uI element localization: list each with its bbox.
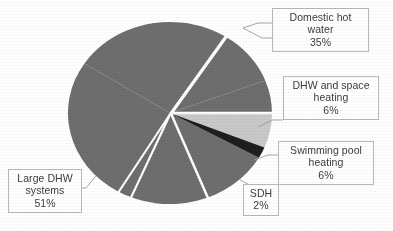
callout-domestic-hot-water-line2: water — [277, 23, 364, 35]
callout-dhw-and-space-heating-line2: heating — [288, 91, 374, 103]
leader-line-large-dhw-systems — [82, 176, 96, 188]
callout-domestic-hot-water[interactable]: Domestic hot water 35% — [272, 8, 369, 52]
callout-domestic-hot-water-line1: Domestic hot — [277, 11, 364, 23]
callout-large-dhw-systems[interactable]: Large DHW systems 51% — [8, 169, 82, 213]
callout-large-dhw-systems-line1: Large DHW — [13, 172, 77, 184]
callout-dhw-and-space-heating-line1: DHW and space — [288, 79, 374, 91]
callout-sdh-percent: 2% — [248, 199, 274, 211]
callout-sdh-line1: SDH — [248, 187, 274, 199]
leader-line-domestic-hot-water-lower — [243, 28, 272, 38]
callout-dhw-and-space-heating-percent: 6% — [288, 104, 374, 116]
leader-line-domestic-hot-water — [243, 23, 272, 28]
callout-sdh[interactable]: SDH 2% — [243, 184, 279, 216]
pie-chart-figure: Domestic hot water 35% DHW and space hea… — [0, 0, 393, 231]
callout-swimming-pool-heating-line1: Swimming pool — [283, 144, 369, 156]
callout-large-dhw-systems-line2: systems — [13, 184, 77, 196]
callout-large-dhw-systems-percent: 51% — [13, 197, 77, 209]
callout-swimming-pool-heating[interactable]: Swimming pool heating 6% — [278, 141, 374, 185]
callout-swimming-pool-heating-percent: 6% — [283, 169, 369, 181]
callout-swimming-pool-heating-line2: heating — [283, 156, 369, 168]
callout-domestic-hot-water-percent: 35% — [277, 36, 364, 48]
callout-dhw-and-space-heating[interactable]: DHW and space heating 6% — [283, 76, 379, 120]
